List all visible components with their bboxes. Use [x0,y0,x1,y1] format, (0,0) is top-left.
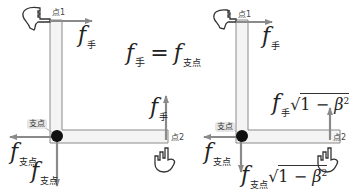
left-point2-label: 点2 [171,134,184,142]
right-hand-top-icon [214,10,236,29]
left-label-f-hand-top: f手 [78,24,96,50]
left-label-f-hand-right: f手 [150,96,168,122]
left-hand-bottom-icon [155,148,175,172]
right-lever [236,20,340,143]
right-label-f-pivot-horizontal: f支点 [204,141,231,167]
right-label-f-hand-right-contracted: f手√1 − β2 [272,92,349,118]
left-lever [50,20,168,143]
right-pivot-icon [236,130,248,142]
right-pivot-tag: 支点 [215,122,235,132]
left-pivot-icon [51,130,63,142]
left-point1-label: 点1 [52,9,65,17]
equation-f-hand-equals-f-pivot: f手 = f支点 [126,42,201,68]
left-hand-top-icon [23,7,50,30]
left-pivot-tag: 支点 [27,119,47,129]
right-point1-label: 点1 [238,11,251,19]
left-label-f-pivot-vertical: f支点 [31,160,58,186]
right-point2-label: 点2 [333,134,346,142]
right-label-f-hand-top: f手 [262,25,280,51]
right-label-f-pivot-vertical-contracted: f支点√1 − β2 [241,164,327,189]
relativity-lever-paradox-diagram: 点1 f手 支点 f支点 f支点 f手 点2 f手 = f支点 点1 f手 支点… [0,0,350,189]
